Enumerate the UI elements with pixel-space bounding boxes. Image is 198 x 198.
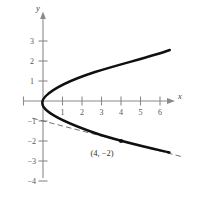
y-tick-label-2: 2	[30, 57, 34, 66]
x-axis-label: x	[177, 91, 182, 101]
y-tick-labels: 3 2 1 −1 −2 −3 −4	[27, 37, 36, 186]
y-axis-arrow-icon	[40, 12, 46, 20]
x-tick-label-5: 5	[139, 108, 143, 117]
x-tick-label-2: 2	[80, 108, 84, 117]
parabola-tangent-figure: 1 2 3 4 5 6 3 2 1 −1 −2 −3 −4 x y (4, −2…	[0, 0, 198, 198]
y-tick-label-1: 1	[30, 77, 34, 86]
tangency-point-marker	[119, 139, 123, 143]
y-tick-label-minus-3: −3	[27, 157, 36, 166]
x-tick-label-1: 1	[61, 108, 65, 117]
plot-canvas: 1 2 3 4 5 6 3 2 1 −1 −2 −3 −4 x y (4, −2…	[0, 0, 198, 198]
y-tick-label-minus-4: −4	[27, 177, 36, 186]
y-tick-label-minus-1: −1	[27, 117, 36, 126]
x-tick-labels: 1 2 3 4 5 6	[61, 108, 163, 117]
y-tick-label-3: 3	[30, 37, 34, 46]
x-tick-label-3: 3	[100, 108, 104, 117]
x-tick-label-4: 4	[119, 108, 123, 117]
y-tick-label-minus-2: −2	[27, 137, 36, 146]
x-axis-arrow-icon	[167, 98, 175, 104]
x-tick-label-6: 6	[158, 108, 162, 117]
y-axis-label: y	[35, 3, 40, 13]
tangency-point-label: (4, −2)	[90, 148, 113, 158]
